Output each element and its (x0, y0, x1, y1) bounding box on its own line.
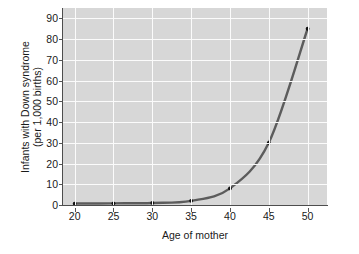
gridline-vertical (308, 8, 309, 205)
y-axis-tick-label: 10 (36, 178, 58, 190)
gridline-horizontal (63, 18, 327, 19)
y-axis-tick-label: 50 (36, 95, 58, 107)
gridline-vertical (269, 8, 270, 205)
gridline-horizontal (63, 122, 327, 123)
y-axis-tick-label: 60 (36, 75, 58, 87)
gridline-vertical (152, 8, 153, 205)
x-axis-tick-labels: 20253035404550 (0, 208, 359, 226)
data-series-line (63, 8, 327, 205)
gridline-vertical (75, 8, 76, 205)
gridline-vertical (230, 8, 231, 205)
plot-area (63, 8, 327, 205)
x-axis-tick-mark (269, 208, 270, 212)
gridline-vertical (113, 8, 114, 205)
y-axis-tick-label: 90 (36, 12, 58, 24)
gridline-horizontal (63, 101, 327, 102)
gridline-vertical (191, 8, 192, 205)
gridline-horizontal (63, 39, 327, 40)
chart-figure: Infants with Down syndrome (per 1,000 bi… (0, 0, 359, 254)
gridline-horizontal (63, 81, 327, 82)
x-axis-tick-mark (152, 208, 153, 212)
gridline-horizontal (63, 60, 327, 61)
x-axis-line (62, 205, 328, 206)
x-axis-tick-mark (113, 208, 114, 212)
y-axis-tick-label: 80 (36, 33, 58, 45)
x-axis-tick-mark (75, 208, 76, 212)
y-axis-tick-label: 40 (36, 116, 58, 128)
x-axis-tick-mark (308, 208, 309, 212)
gridline-horizontal (63, 143, 327, 144)
x-axis-title: Age of mother (63, 229, 327, 241)
gridline-horizontal (63, 184, 327, 185)
y-axis-title-line-1: Infants with Down syndrome (19, 41, 31, 173)
x-axis-tick-mark (191, 208, 192, 212)
y-axis-tick-label: 20 (36, 158, 58, 170)
gridline-horizontal (63, 164, 327, 165)
y-axis-tick-label: 30 (36, 137, 58, 149)
x-axis-tick-mark (230, 208, 231, 212)
y-axis-tick-label: 70 (36, 54, 58, 66)
